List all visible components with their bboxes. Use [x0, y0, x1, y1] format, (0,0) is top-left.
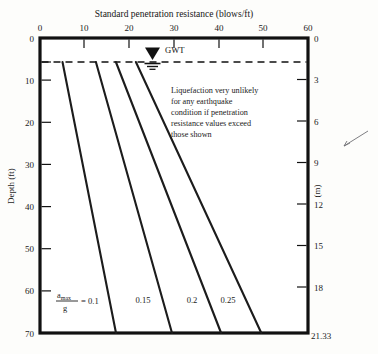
y-axis-title: Depth (ft)	[6, 168, 16, 204]
x-tick-label-50: 50	[259, 23, 269, 33]
y-tick-label-60: 60	[25, 286, 35, 296]
x-tick-label-20: 20	[125, 23, 135, 33]
x-tick-label-10: 10	[80, 23, 90, 33]
annotation-line-3: condition if penetration	[171, 108, 248, 117]
y-axis-top-zero-label: 0	[30, 34, 35, 44]
gwt-label: GWT	[165, 45, 185, 55]
y2-tick-label-18: 18	[314, 283, 324, 293]
curve-label-0-15: 0.15	[135, 295, 150, 305]
y-tick-label-70: 70	[25, 329, 35, 339]
y2-tick-label-3: 3	[314, 75, 319, 85]
amax-subscript: max	[61, 295, 71, 301]
y2-axis-top-zero-label: 0	[314, 34, 319, 44]
y-tick-label-10: 10	[25, 76, 35, 86]
y-tick-label-50: 50	[25, 244, 35, 254]
annotation-line-4: resistance values exceed	[171, 119, 251, 128]
annotation-line-1: Liquefaction very unlikely	[171, 86, 259, 95]
penetration-resistance-chart: Standard penetration resistance (blows/f…	[0, 0, 378, 354]
curve-label-0-1: = 0.1	[81, 296, 99, 306]
x-tick-label-60: 60	[304, 23, 314, 33]
chart-figure: Standard penetration resistance (blows/f…	[0, 0, 378, 354]
y2-tick-label-6: 6	[314, 117, 319, 127]
plot-frame	[40, 38, 308, 333]
y2-axis-title: (m)	[312, 185, 322, 198]
y2-tick-label-21-33: 21.33	[311, 331, 332, 341]
y2-tick-label-15: 15	[314, 241, 324, 251]
x-tick-label-0: 0	[38, 23, 43, 33]
y2-tick-label-12: 12	[314, 200, 323, 210]
y2-tick-label-9: 9	[314, 158, 319, 168]
y-tick-label-30: 30	[25, 160, 35, 170]
y-tick-label-40: 40	[25, 202, 35, 212]
x-tick-label-40: 40	[215, 23, 225, 33]
x-tick-label-30: 30	[170, 23, 180, 33]
curve-label-0-2: 0.2	[187, 295, 198, 305]
chart-title: Standard penetration resistance (blows/f…	[95, 9, 254, 20]
annotation-line-5: those shown	[171, 130, 212, 139]
curve-label-0-25: 0.25	[220, 295, 235, 305]
y-tick-label-20: 20	[25, 118, 35, 128]
annotation-line-2: for any earthquake	[171, 97, 233, 106]
